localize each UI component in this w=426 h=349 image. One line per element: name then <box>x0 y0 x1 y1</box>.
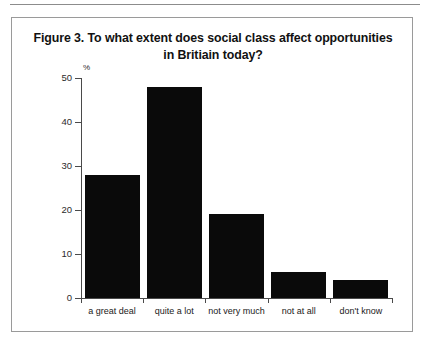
bar-column <box>333 78 388 298</box>
bar <box>271 272 326 298</box>
bar-column <box>271 78 326 298</box>
bar-column <box>147 78 202 298</box>
x-axis-tick <box>81 298 82 303</box>
figure-container: Figure 3. To what extent does social cla… <box>11 17 413 332</box>
page-top-rule <box>10 4 420 5</box>
x-axis-category-label: quite a lot <box>143 306 205 316</box>
bar-series <box>81 78 392 298</box>
y-axis-tick-label: 20 <box>28 205 72 215</box>
y-axis-tick-label: 10 <box>28 249 72 259</box>
bar-column <box>209 78 264 298</box>
bar <box>147 87 202 298</box>
y-axis-unit-label: % <box>83 63 90 72</box>
x-axis-category-label: not very much <box>205 306 267 316</box>
chart-plot-area: % 01020304050 a great dealquite a lotnot… <box>12 18 412 331</box>
x-axis-tick <box>205 298 206 303</box>
y-axis-tick-label: 30 <box>28 161 72 171</box>
x-axis-category-label: a great deal <box>81 306 143 316</box>
y-axis-tick-label: 40 <box>28 117 72 127</box>
bar-column <box>85 78 140 298</box>
x-axis-category-label: don't know <box>330 306 392 316</box>
bar <box>209 214 264 298</box>
x-axis-tick <box>330 298 331 303</box>
y-axis-tick-label: 50 <box>28 73 72 83</box>
bar <box>333 280 388 298</box>
y-axis-tick-label: 0 <box>28 293 72 303</box>
x-axis-line <box>81 298 392 299</box>
x-axis-tick <box>143 298 144 303</box>
x-axis-tick <box>392 298 393 303</box>
x-axis-tick <box>268 298 269 303</box>
bar <box>85 175 140 298</box>
x-axis-category-label: not at all <box>268 306 330 316</box>
